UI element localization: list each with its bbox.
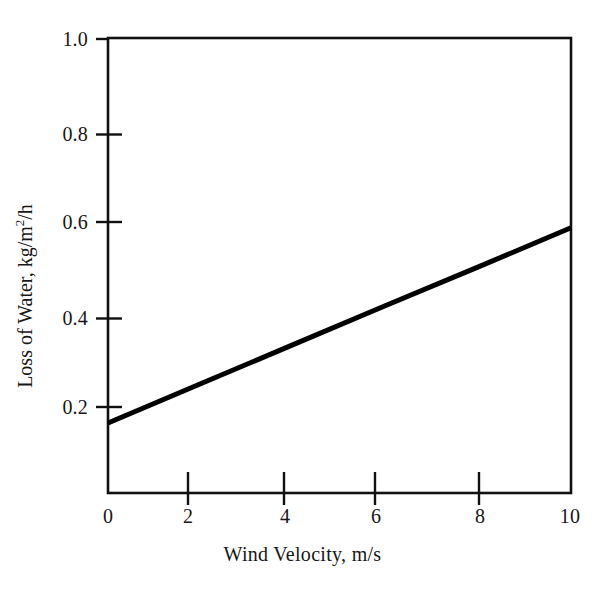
x-tick-label-4: 4 [280, 505, 290, 528]
y-axis-title-tail: /h [14, 204, 36, 220]
x-tick-label-10: 10 [560, 505, 580, 528]
y-axis-title-exponent: 2 [12, 220, 27, 227]
chart-figure: 1.0 0.8 0.6 0.4 0.2 0 2 4 6 8 10 Wind Ve… [0, 0, 605, 592]
x-tick-label-8: 8 [475, 505, 485, 528]
y-axis-title-main: Loss of Water, kg/m [14, 226, 36, 388]
plot-canvas [0, 0, 605, 592]
x-axis-title: Wind Velocity, m/s [0, 543, 605, 566]
x-tick-label-0: 0 [103, 505, 113, 528]
plot-frame [108, 38, 571, 493]
y-axis-title-container: Loss of Water, kg/m2/h [0, 0, 50, 592]
plot-frame-rect [108, 38, 571, 493]
x-tick-label-6: 6 [371, 505, 381, 528]
y-axis-title: Loss of Water, kg/m2/h [14, 204, 37, 388]
x-tick-label-2: 2 [183, 505, 193, 528]
